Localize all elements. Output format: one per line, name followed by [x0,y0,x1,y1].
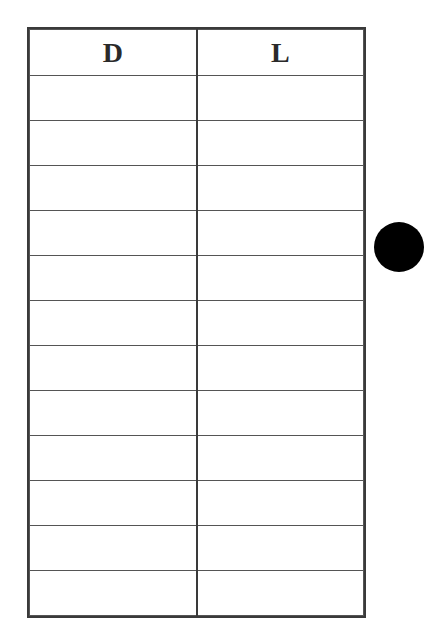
table-row [30,391,364,436]
cell-d [30,121,197,166]
table-row [30,211,364,256]
cell-d [30,166,197,211]
table-row [30,526,364,571]
cell-l [197,526,364,571]
cell-l [197,121,364,166]
cell-d [30,481,197,526]
header-row: D L [30,30,364,76]
cell-l [197,256,364,301]
cell-d [30,346,197,391]
table-row [30,76,364,121]
cell-l [197,76,364,121]
cell-l [197,211,364,256]
header-d: D [30,30,197,76]
table-row [30,301,364,346]
cell-d [30,436,197,481]
table-body [30,76,364,616]
cell-d [30,526,197,571]
table-row [30,346,364,391]
cell-d [30,76,197,121]
cell-l [197,301,364,346]
table-row [30,121,364,166]
black-circle-marker [374,222,424,272]
table-row [30,436,364,481]
header-l: L [197,30,364,76]
cell-l [197,481,364,526]
table-row [30,166,364,211]
table-row [30,481,364,526]
cell-l [197,166,364,211]
cell-d [30,571,197,616]
cell-l [197,346,364,391]
dl-table: D L [27,27,366,618]
cell-d [30,256,197,301]
table-row [30,571,364,616]
cell-d [30,301,197,346]
table-row [30,256,364,301]
cell-d [30,391,197,436]
cell-d [30,211,197,256]
dl-table-grid: D L [29,29,364,616]
cell-l [197,436,364,481]
cell-l [197,391,364,436]
cell-l [197,571,364,616]
